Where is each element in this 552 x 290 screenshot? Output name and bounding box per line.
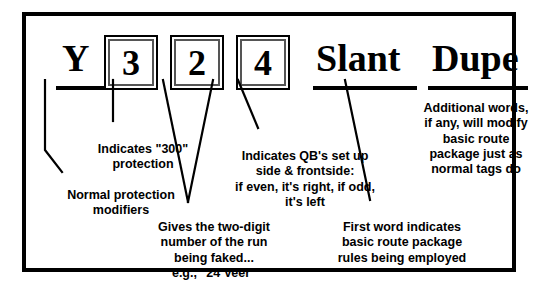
diagram-frame: Y 3 2 4 Slant Dupe Normal protection mod… <box>22 12 516 272</box>
annotation-indicates-300: Indicates "300" protection <box>76 142 210 173</box>
annotation-additional-words: Additional words, if any, will modify ba… <box>408 101 544 177</box>
digit-value-third: 4 <box>238 45 288 81</box>
digit-value-second: 2 <box>172 45 222 81</box>
play-call-tag-y: Y <box>62 39 89 77</box>
digit-box-first: 3 <box>104 35 158 90</box>
digit-box-second: 2 <box>170 35 224 90</box>
digit-box-third: 4 <box>236 35 290 90</box>
digit-value-first: 3 <box>106 45 156 81</box>
play-call-word-dupe: Dupe <box>432 39 519 77</box>
annotation-normal-protection: Normal protection modifiers <box>50 188 192 219</box>
annotation-first-word: First word indicates basic route package… <box>322 220 482 266</box>
annotation-qb-setup: Indicates QB's set up side & frontside: … <box>222 149 388 210</box>
play-call-word-slant: Slant <box>316 39 400 77</box>
annotation-two-digit-run: Gives the two-digit number of the run be… <box>126 220 302 281</box>
play-call-diagram: Y 3 2 4 Slant Dupe Normal protection mod… <box>0 0 552 290</box>
underline-word-dupe <box>428 86 528 90</box>
underline-word-slant <box>313 86 417 90</box>
